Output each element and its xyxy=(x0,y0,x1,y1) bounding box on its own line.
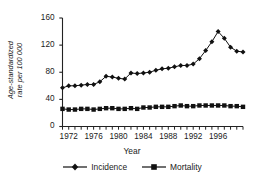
x-tick-label: 1976 xyxy=(80,132,108,141)
data-series-layer xyxy=(60,29,246,112)
x-axis-title: Year xyxy=(0,146,264,156)
chart-legend: Incidence Mortality xyxy=(0,162,264,172)
x-tick-label: 1992 xyxy=(179,132,207,141)
x-tick-label: 1996 xyxy=(204,132,232,141)
y-tick-label: 80 xyxy=(33,67,55,76)
legend-item-incidence[interactable]: Incidence xyxy=(62,162,127,172)
y-axis-title-line2: rate per 100 000 xyxy=(15,43,24,97)
y-axis-title: Age-standardized rate per 100 000 xyxy=(2,14,28,126)
y-tick-label: 0 xyxy=(33,121,55,130)
x-tick-label: 1972 xyxy=(55,132,83,141)
series-mortality xyxy=(60,103,245,111)
y-tick-label: 40 xyxy=(33,94,55,103)
legend-item-mortality[interactable]: Mortality xyxy=(141,162,202,172)
x-tick-label: 1980 xyxy=(105,132,133,141)
x-tick-label: 1984 xyxy=(129,132,157,141)
mortality-marker-icon xyxy=(141,162,167,172)
incidence-marker-icon xyxy=(62,162,88,172)
x-tick-label: 1988 xyxy=(154,132,182,141)
chart-figure: Age-standardized rate per 100 000 040801… xyxy=(0,0,264,183)
y-tick-label: 160 xyxy=(33,13,55,22)
legend-label-mortality: Mortality xyxy=(170,162,202,172)
y-axis-title-line1: Age-standardized xyxy=(6,41,15,99)
legend-label-incidence: Incidence xyxy=(91,162,127,172)
y-tick-label: 120 xyxy=(33,40,55,49)
series-incidence xyxy=(60,29,246,90)
